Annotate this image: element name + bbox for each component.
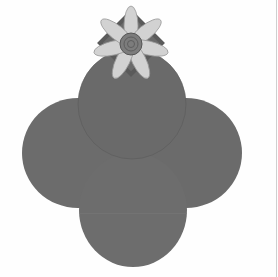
flower-center — [120, 33, 142, 55]
bottom-petal — [79, 153, 187, 267]
image-border — [276, 0, 277, 277]
photo — [0, 0, 278, 277]
bottom-fold-line — [79, 213, 187, 214]
petal-envelope — [0, 0, 278, 277]
